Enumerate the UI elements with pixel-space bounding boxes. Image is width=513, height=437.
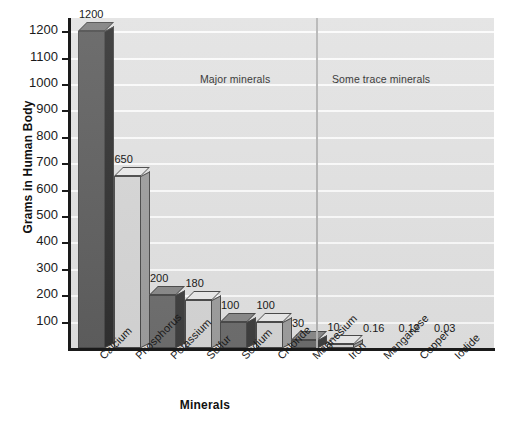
y-axis-tick-label: 400 bbox=[12, 233, 58, 248]
bar-value-label: 180 bbox=[186, 277, 204, 289]
y-axis-tick-label: 300 bbox=[12, 260, 58, 275]
y-axis-tick bbox=[62, 31, 69, 33]
y-axis-tick bbox=[62, 84, 69, 86]
bar-phosphorus bbox=[114, 176, 141, 348]
bar-value-label: 200 bbox=[150, 272, 168, 284]
y-axis-tick bbox=[62, 163, 69, 165]
group-divider bbox=[316, 18, 318, 348]
y-axis-tick bbox=[62, 295, 69, 297]
gridline bbox=[70, 137, 494, 139]
bar-front-face bbox=[78, 31, 105, 348]
y-axis-tick-label: 100 bbox=[12, 313, 58, 328]
gridline bbox=[70, 84, 494, 86]
plot-area: Major mineralsSome trace minerals bbox=[70, 18, 494, 348]
y-axis-tick-label: 800 bbox=[12, 128, 58, 143]
bar-value-label: 30 bbox=[292, 317, 304, 329]
y-axis-tick-label: 1100 bbox=[12, 49, 58, 64]
y-axis-line bbox=[68, 18, 71, 349]
bar-value-label: 10 bbox=[328, 321, 340, 333]
x-axis-title: Minerals bbox=[0, 398, 410, 412]
y-axis-tick bbox=[62, 137, 69, 139]
bar-calcium bbox=[78, 31, 105, 348]
y-axis-tick-label: 1000 bbox=[12, 75, 58, 90]
bar-value-label: 0.03 bbox=[434, 322, 455, 334]
bar-value-label: 1200 bbox=[79, 8, 103, 20]
gridline bbox=[70, 110, 494, 112]
y-axis-tick-label: 900 bbox=[12, 101, 58, 116]
y-axis-tick bbox=[62, 322, 69, 324]
y-axis-tick bbox=[62, 269, 69, 271]
y-axis-tick bbox=[62, 110, 69, 112]
y-axis-tick-label: 200 bbox=[12, 286, 58, 301]
y-axis-tick bbox=[62, 58, 69, 60]
bar-value-label: 0.12 bbox=[399, 322, 420, 334]
y-axis-tick-label: 600 bbox=[12, 181, 58, 196]
gridline bbox=[70, 31, 494, 33]
annotation-trace-minerals: Some trace minerals bbox=[332, 73, 430, 85]
gridline bbox=[70, 163, 494, 165]
y-axis-tick bbox=[62, 242, 69, 244]
bar-front-face bbox=[114, 176, 141, 348]
y-axis-tick bbox=[62, 216, 69, 218]
bar-value-label: 100 bbox=[221, 299, 239, 311]
y-axis-tick-label: 1200 bbox=[12, 22, 58, 37]
annotation-major-minerals: Major minerals bbox=[200, 73, 270, 85]
bar-value-label: 650 bbox=[115, 153, 133, 165]
gridline bbox=[70, 58, 494, 60]
chart-figure: Major mineralsSome trace minerals Grams … bbox=[0, 0, 513, 437]
bar-value-label: 0.16 bbox=[363, 322, 384, 334]
y-axis-tick bbox=[62, 190, 69, 192]
y-axis-tick-label: 500 bbox=[12, 207, 58, 222]
bar-value-label: 100 bbox=[257, 299, 275, 311]
y-axis-tick-label: 700 bbox=[12, 154, 58, 169]
